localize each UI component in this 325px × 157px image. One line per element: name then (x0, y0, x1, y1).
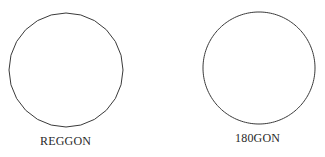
180gon-label: 180GON (235, 131, 280, 146)
reggon-label: REGGON (40, 134, 91, 149)
reggon-polygon (9, 13, 123, 127)
180gon-polygon (203, 12, 315, 124)
